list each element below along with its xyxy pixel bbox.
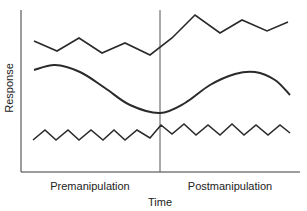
- x-axis-label: Time: [148, 196, 172, 208]
- y-axis-label: Response: [3, 63, 15, 113]
- line-chart: Response Premanipulation Postmanipulatio…: [0, 0, 307, 211]
- postmanipulation-label: Postmanipulation: [188, 180, 272, 192]
- series-top-zigzag: [34, 15, 288, 55]
- premanipulation-label: Premanipulation: [50, 180, 130, 192]
- series-smooth-curve: [34, 65, 290, 113]
- series-bottom-zigzag: [33, 124, 290, 140]
